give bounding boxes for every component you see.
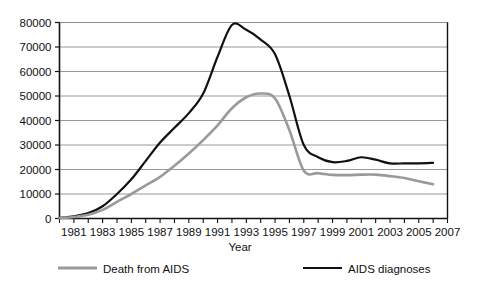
x-tick-label: 1981 (61, 226, 87, 238)
chart-canvas: 0100002000030000400005000060000700008000… (0, 0, 480, 294)
x-tick-label: 1989 (176, 226, 202, 238)
x-tick-label: 1995 (262, 226, 288, 238)
y-tick-label: 10000 (20, 188, 52, 200)
y-tick-label: 50000 (20, 90, 52, 102)
y-tick-label: 20000 (20, 164, 52, 176)
y-tick-label: 70000 (20, 41, 52, 53)
x-tick-label: 2005 (406, 226, 432, 238)
y-tick-label: 80000 (20, 17, 52, 29)
y-tick-label: 0 (45, 213, 51, 225)
legend-label: AIDS diagnoses (348, 263, 431, 275)
legend-label: Death from AIDS (103, 263, 190, 275)
aids-line-chart: 0100002000030000400005000060000700008000… (0, 0, 480, 294)
x-tick-label: 2003 (377, 226, 403, 238)
x-tick-label: 1983 (90, 226, 116, 238)
x-axis-tick-labels: 1981198319851987198919911993199519971999… (61, 226, 460, 238)
x-tick-label: 1991 (205, 226, 231, 238)
x-axis-title: Year (228, 241, 251, 253)
x-tick-label: 2001 (348, 226, 374, 238)
y-tick-label: 40000 (20, 115, 52, 127)
legend-item: AIDS diagnoses (303, 263, 431, 275)
y-tick-label: 60000 (20, 66, 52, 78)
x-tick-label: 1997 (291, 226, 317, 238)
x-tick-label: 2007 (435, 226, 461, 238)
x-tick-label: 1987 (147, 226, 173, 238)
x-tick-label: 1985 (119, 226, 145, 238)
legend-item: Death from AIDS (58, 263, 190, 275)
x-tick-label: 1999 (320, 226, 346, 238)
x-tick-label: 1993 (234, 226, 260, 238)
y-axis-tick-labels: 0100002000030000400005000060000700008000… (20, 17, 52, 225)
chart-legend: Death from AIDSAIDS diagnoses (58, 263, 431, 275)
y-tick-label: 30000 (20, 139, 52, 151)
